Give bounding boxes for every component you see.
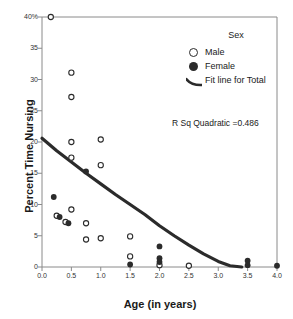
x-axis-title: Age (in years): [42, 298, 278, 310]
data-points-female: [51, 168, 280, 268]
x-tick-label: 1.0: [87, 272, 115, 279]
fit-line-icon: [186, 73, 202, 86]
x-tick-label: 4.0: [263, 272, 291, 279]
x-tick-label: 3.5: [234, 272, 262, 279]
legend-entry-male-label: Male: [205, 47, 225, 57]
legend-title: Sex: [190, 30, 282, 40]
x-tick-label: 0.5: [57, 272, 85, 279]
legend-entry-female-label: Female: [205, 61, 235, 71]
legend-entry-fit-line-label: Fit line for Total: [205, 75, 266, 85]
legend-entry-male[interactable]: Male: [186, 45, 290, 58]
r-squared-annotation: R Sq Quadratic =0.486: [172, 118, 259, 128]
open-circle-icon: [186, 45, 202, 58]
y-axis-ticks: [38, 17, 42, 267]
legend-entry-fit-line[interactable]: Fit line for Total: [186, 73, 290, 86]
x-tick-label: 2.0: [146, 272, 174, 279]
x-tick-label: 1.5: [116, 272, 144, 279]
y-tick-label: 35: [8, 44, 38, 51]
x-tick-label: 2.5: [175, 272, 203, 279]
filled-circle-icon: [186, 59, 202, 72]
y-tick-label: 40%: [8, 13, 38, 20]
legend-entry-female[interactable]: Female: [186, 59, 290, 72]
data-points-male: [48, 14, 191, 268]
x-tick-label: 3.0: [204, 272, 232, 279]
y-axis-title: Percent Time Nursing: [23, 71, 35, 241]
x-tick-label: 0.0: [28, 272, 56, 279]
legend: Sex Male Female Fit line for Total: [186, 30, 290, 87]
scatter-plot-figure: 0510152025303540% 0.00.51.01.52.02.53.03…: [0, 0, 293, 319]
y-tick-label: 0: [8, 263, 38, 270]
